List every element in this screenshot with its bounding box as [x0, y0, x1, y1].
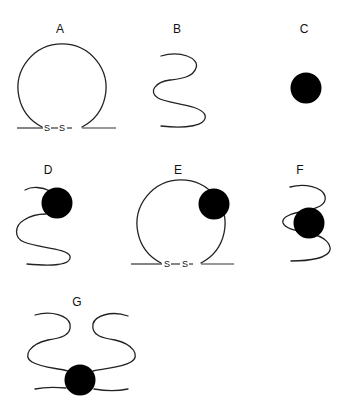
panel-label-c: C [300, 22, 309, 36]
panel-label-d: D [44, 163, 53, 177]
diagram-canvas: A S S B C D E S S F [0, 0, 349, 410]
right-chain-g [93, 314, 136, 371]
sphere-f [294, 208, 325, 239]
sphere-e [199, 189, 230, 220]
panel-d: D [17, 163, 73, 265]
panel-c: C [291, 22, 322, 104]
panel-e: E S S [131, 163, 234, 269]
panel-label-e: E [174, 163, 182, 177]
disulfide-loop-a [18, 44, 106, 127]
wavy-chain-b [153, 54, 205, 127]
sphere-d [42, 188, 73, 219]
sphere-c [291, 73, 322, 104]
sulfur-label-a2: S [59, 123, 65, 133]
panel-f: F [283, 163, 330, 261]
sulfur-label-e2: S [182, 259, 188, 269]
panel-label-f: F [296, 163, 303, 177]
sulfur-label-a1: S [44, 123, 50, 133]
panel-label-a: A [56, 22, 64, 36]
panel-a: A S S [17, 22, 116, 133]
sulfur-label-e1: S [164, 259, 170, 269]
panel-label-b: B [173, 22, 181, 36]
left-chain-g [28, 313, 71, 371]
sphere-g [65, 365, 96, 396]
panel-g: G [28, 295, 136, 396]
left-tail-g [35, 387, 66, 389]
right-tail-g [94, 389, 128, 391]
panel-b: B [153, 22, 205, 127]
panel-label-g: G [72, 295, 81, 309]
